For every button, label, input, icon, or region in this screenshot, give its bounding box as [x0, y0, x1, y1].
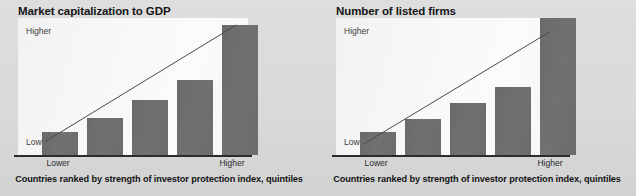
- x-axis-line: [14, 155, 252, 157]
- chart-title: Market capitalization to GDP: [18, 5, 170, 17]
- chart-panel-number-of-listed-firms: Number of listed firms Higher Lower Lowe…: [318, 0, 636, 196]
- bar: [450, 103, 486, 155]
- bar: [360, 132, 396, 155]
- bar-series: [336, 18, 566, 155]
- chart-panel-market-capitalization-to-gdp: Market capitalization to GDP Higher Lowe…: [0, 0, 318, 196]
- chart-title: Number of listed firms: [336, 5, 456, 17]
- bar: [42, 132, 78, 155]
- x-axis-tick-higher: Higher: [202, 158, 262, 168]
- x-axis-tick-higher: Higher: [520, 158, 580, 168]
- bar: [222, 25, 258, 155]
- bar: [495, 87, 531, 156]
- chart-caption: Countries ranked by strength of investor…: [318, 174, 636, 184]
- bar: [87, 118, 123, 155]
- figure-root: Market capitalization to GDP Higher Lowe…: [0, 0, 636, 196]
- x-axis-tick-lower: Lower: [346, 158, 406, 168]
- bar-series: [18, 18, 248, 155]
- bar: [177, 80, 213, 155]
- x-axis-tick-lower: Lower: [28, 158, 88, 168]
- x-axis-line: [332, 155, 570, 157]
- plot-area: Higher Lower: [336, 18, 566, 155]
- bar: [540, 18, 576, 155]
- bar: [132, 100, 168, 155]
- plot-area: Higher Lower: [18, 18, 248, 155]
- chart-caption: Countries ranked by strength of investor…: [0, 174, 318, 184]
- bar: [405, 119, 441, 155]
